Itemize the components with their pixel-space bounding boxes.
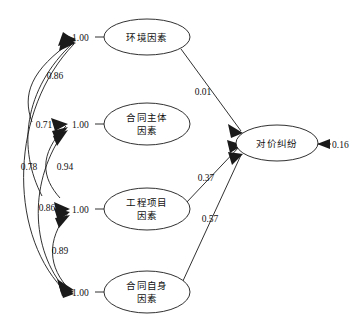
engineering-project-ellipse[interactable] [104,188,190,230]
covariance-label-subject-project: 0.94 [57,162,74,172]
arrowhead-dispute-from-contract [228,152,243,165]
loading-label-contract-subject: 1.00 [72,120,89,130]
loading-label-contract-itself: 1.00 [72,288,89,298]
consideration-dispute-label: 对价纠纷 [256,138,298,149]
contract-itself-ellipse[interactable] [104,271,190,313]
covariance-label-env-contract: 0.78 [21,162,38,172]
covariance-label-env-subject: 0.86 [47,71,64,81]
node-contract-itself[interactable]: 合同自身 因素 [104,271,190,313]
node-consideration-dispute[interactable]: 对价纠纷 [236,125,318,161]
contract-itself-label-line2: 因素 [137,293,158,304]
arrowhead-residual [317,139,330,149]
covariance-label-project-contract: 0.89 [52,246,69,256]
loading-label-engineering-project: 1.00 [72,205,89,215]
loading-label-environment: 1.00 [72,33,89,43]
residual-arrow [317,139,331,149]
environment-label: 环境因素 [126,32,168,43]
engineering-project-label-line1: 工程项目 [126,198,168,208]
covariance-label-subject-contract: 0.86 [39,203,56,213]
loading-connectors [95,37,104,292]
structural-paths [181,49,243,283]
contract-subject-ellipse[interactable] [104,103,190,145]
node-environment[interactable]: 环境因素 [104,19,190,55]
residual-label-group: 0.16 [332,140,349,150]
sem-path-diagram: 环境因素 合同主体 因素 工程项目 因素 合同自身 因素 对价纠纷 1.00 1… [0,0,355,324]
contract-subject-label-line2: 因素 [137,125,158,136]
residual-label-dispute: 0.16 [332,140,349,150]
node-contract-subject[interactable]: 合同主体 因素 [104,103,190,145]
path-coefficient-labels: 0.01 0.37 0.57 [195,87,219,224]
path-label-project-to-dispute: 0.37 [198,173,215,183]
contract-subject-label-line1: 合同主体 [126,112,168,123]
node-engineering-project[interactable]: 工程项目 因素 [104,188,190,230]
arc-env-project [28,42,74,196]
path-label-env-to-dispute: 0.01 [195,87,212,97]
covariance-label-env-project: 0.71 [36,120,53,130]
engineering-project-label-line2: 因素 [137,210,158,221]
loading-labels: 1.00 1.00 1.00 1.00 [72,33,89,298]
diagram-canvas: 环境因素 合同主体 因素 工程项目 因素 合同自身 因素 对价纠纷 1.00 1… [0,0,355,324]
contract-itself-label-line1: 合同自身 [126,280,168,291]
path-label-contract-to-dispute: 0.57 [202,214,219,224]
